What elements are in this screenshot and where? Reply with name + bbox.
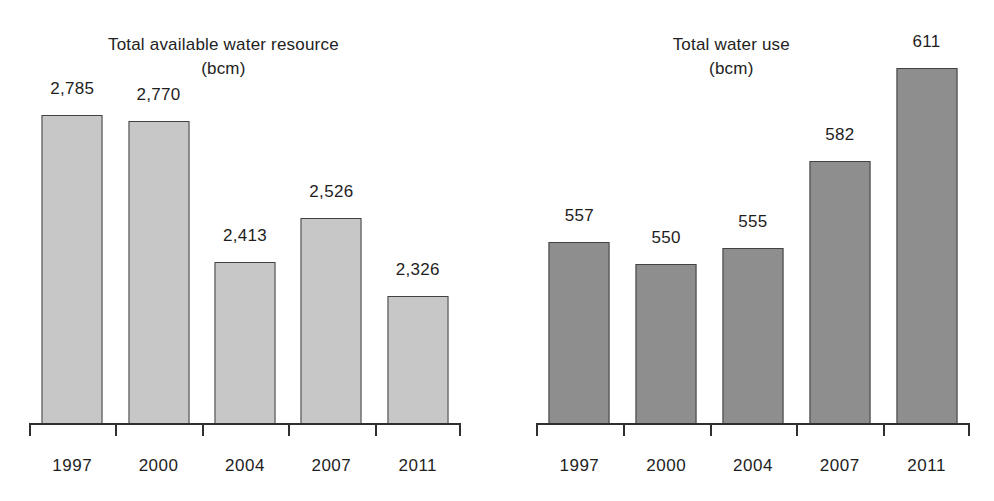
x-axis-tick (115, 423, 117, 436)
chart-subtitle: (bcm) (108, 57, 339, 81)
x-tick-label: 2004 (733, 456, 773, 476)
bar-value-label: 555 (738, 212, 767, 232)
bar (301, 218, 362, 425)
water-use-chart: Total water use (bcm) 557199755020005552… (536, 0, 970, 501)
x-tick-label: 2000 (646, 456, 686, 476)
bar-value-label: 611 (913, 32, 941, 52)
x-tick-label: 2011 (907, 456, 946, 476)
chart-title-line: Total water use (673, 33, 790, 57)
bar (722, 248, 783, 425)
bar-value-label: 2,326 (396, 260, 440, 280)
bar (636, 264, 697, 425)
bar-value-label: 2,770 (137, 85, 181, 105)
bar (896, 68, 957, 425)
x-axis-tick (968, 423, 970, 436)
x-axis-tick (375, 423, 377, 436)
bar (549, 242, 610, 425)
x-tick-label: 2004 (225, 456, 265, 476)
bar-value-label: 2,526 (309, 182, 353, 202)
x-axis-tick (536, 423, 538, 436)
x-tick-label: 2011 (399, 456, 438, 476)
bar-value-label: 2,785 (50, 79, 94, 99)
water-resource-chart: Total available water resource (bcm) 2,7… (29, 0, 461, 501)
bar (128, 121, 189, 425)
bar (214, 262, 275, 425)
x-axis-tick (202, 423, 204, 436)
chart-title: Total water use (bcm) (673, 33, 790, 81)
bar-value-label: 550 (652, 228, 681, 248)
x-axis-tick (883, 423, 885, 436)
bar (809, 161, 870, 425)
bar-value-label: 582 (825, 125, 854, 145)
chart-title: Total available water resource (bcm) (108, 33, 339, 81)
figure: Total available water resource (bcm) 2,7… (0, 0, 994, 501)
x-axis-line (29, 423, 461, 425)
x-axis-tick (29, 423, 31, 436)
chart-title-line: Total available water resource (108, 33, 339, 57)
bar-value-label: 557 (565, 206, 594, 226)
x-tick-label: 1997 (559, 456, 599, 476)
bar (42, 115, 103, 425)
chart-subtitle: (bcm) (673, 57, 790, 81)
x-tick-label: 2007 (311, 456, 351, 476)
bar-value-label: 2,413 (223, 226, 267, 246)
x-axis-tick (710, 423, 712, 436)
x-tick-label: 2000 (139, 456, 179, 476)
bar (387, 296, 448, 425)
x-axis-line (536, 423, 970, 425)
x-axis-tick (623, 423, 625, 436)
x-tick-label: 2007 (820, 456, 860, 476)
x-axis-tick (459, 423, 461, 436)
x-axis-tick (796, 423, 798, 436)
x-axis-tick (288, 423, 290, 436)
x-tick-label: 1997 (52, 456, 92, 476)
